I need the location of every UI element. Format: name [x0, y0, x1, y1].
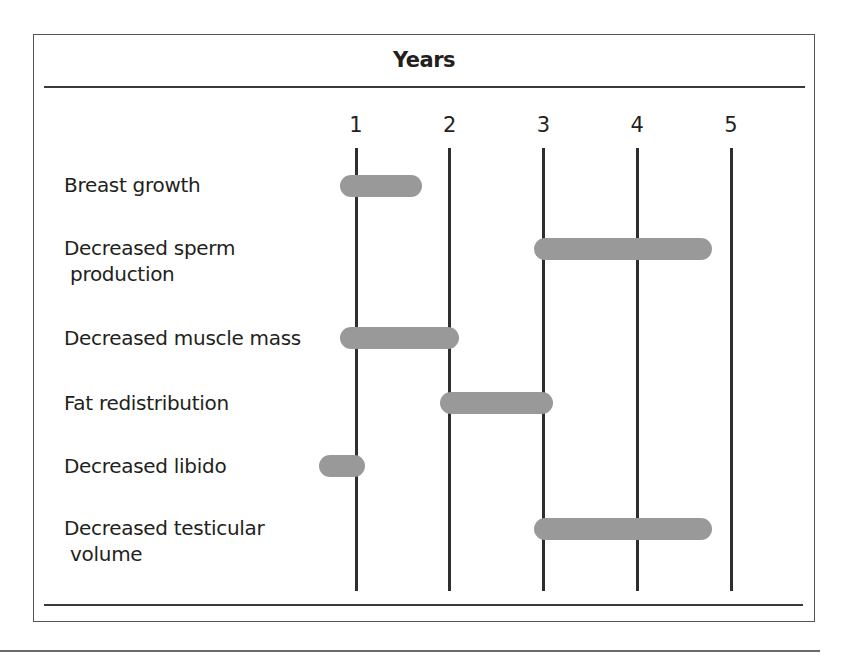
x-tick-label: 4: [622, 113, 652, 137]
year-gridline: [355, 148, 358, 591]
x-tick-label: 2: [435, 113, 465, 137]
row-label: Decreased testicular volume: [64, 515, 265, 567]
duration-bar: [534, 518, 712, 540]
duration-bar: [340, 327, 459, 349]
duration-bar: [319, 455, 366, 477]
row-label: Decreased libido: [64, 453, 226, 479]
year-gridline: [730, 148, 733, 591]
row-label-line: Decreased muscle mass: [64, 325, 301, 351]
header-rule: [44, 86, 805, 88]
x-tick-label: 5: [716, 113, 746, 137]
row-label-line: Breast growth: [64, 172, 200, 198]
page-rule: [0, 650, 820, 652]
row-label-line: Decreased sperm: [64, 235, 235, 261]
row-label-line: Fat redistribution: [64, 390, 229, 416]
row-label-line: production: [64, 261, 235, 287]
duration-bar: [340, 175, 422, 197]
row-label-line: Decreased libido: [64, 453, 226, 479]
year-gridline: [448, 148, 451, 591]
duration-bar: [534, 238, 712, 260]
row-label-line: Decreased testicular: [64, 515, 265, 541]
chart-title: Years: [0, 48, 848, 72]
row-label: Breast growth: [64, 172, 200, 198]
row-label: Fat redistribution: [64, 390, 229, 416]
x-tick-label: 1: [341, 113, 371, 137]
duration-bar: [440, 392, 553, 414]
row-label-line: volume: [64, 541, 265, 567]
bottom-rule: [44, 604, 803, 606]
row-label: Decreased sperm production: [64, 235, 235, 287]
x-tick-label: 3: [529, 113, 559, 137]
row-label: Decreased muscle mass: [64, 325, 301, 351]
